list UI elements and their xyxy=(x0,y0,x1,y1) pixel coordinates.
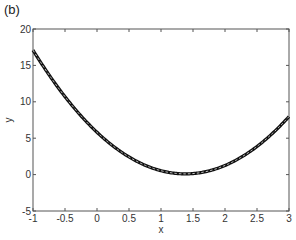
line-chart: -1-0.500.511.522.53-505101520xy xyxy=(0,0,296,240)
x-tick-label: 0.5 xyxy=(122,213,136,224)
y-axis-label: y xyxy=(3,118,14,123)
plot-axes xyxy=(33,29,289,211)
y-tick-label: 15 xyxy=(20,60,32,71)
y-tick-label: 0 xyxy=(25,169,31,180)
x-tick-label: 2 xyxy=(222,213,228,224)
plot-frame xyxy=(33,29,289,211)
axis-labels: -1-0.500.511.522.53-505101520xy xyxy=(3,24,292,236)
x-tick-label: 0 xyxy=(94,213,100,224)
x-tick-label: -0.5 xyxy=(56,213,74,224)
y-tick-label: 10 xyxy=(20,96,32,107)
y-tick-label: -5 xyxy=(22,206,31,217)
x-tick-label: 2.5 xyxy=(250,213,264,224)
series-fit-line xyxy=(33,50,289,174)
y-tick-label: 20 xyxy=(20,24,32,35)
y-tick-label: 5 xyxy=(25,133,31,144)
x-tick-label: 1.5 xyxy=(186,213,200,224)
x-axis-label: x xyxy=(159,224,164,235)
x-tick-label: 1 xyxy=(158,213,164,224)
series-data-line xyxy=(33,50,289,174)
plot-series xyxy=(33,50,289,174)
x-tick-label: 3 xyxy=(286,213,292,224)
